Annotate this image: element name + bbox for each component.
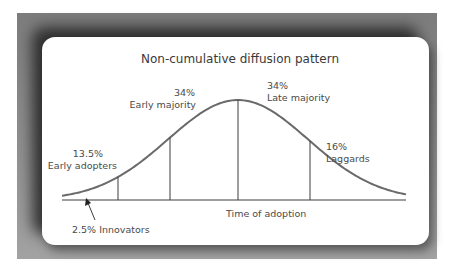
late-majority-label: Late majority bbox=[267, 92, 331, 103]
early-majority-label: Early majority bbox=[130, 99, 197, 110]
innovators-pointer bbox=[88, 203, 95, 220]
bell-curve bbox=[62, 100, 406, 196]
laggards-label: Laggards bbox=[326, 153, 370, 164]
early-adopters-percent: 13.5% bbox=[73, 148, 103, 159]
laggards-percent: 16% bbox=[326, 141, 347, 152]
time-axis-label: Time of adoption bbox=[225, 208, 306, 219]
late-majority-percent: 34% bbox=[267, 80, 288, 91]
innovators-label: 2.5% Innovators bbox=[72, 224, 150, 235]
arrow-head-icon bbox=[85, 198, 91, 206]
early-adopters-label: Early adopters bbox=[48, 160, 117, 171]
diffusion-diagram: Non-cumulative diffusion pattern 2.5% In… bbox=[0, 0, 464, 280]
early-majority-percent: 34% bbox=[174, 87, 195, 98]
diagram-title: Non-cumulative diffusion pattern bbox=[141, 52, 339, 66]
